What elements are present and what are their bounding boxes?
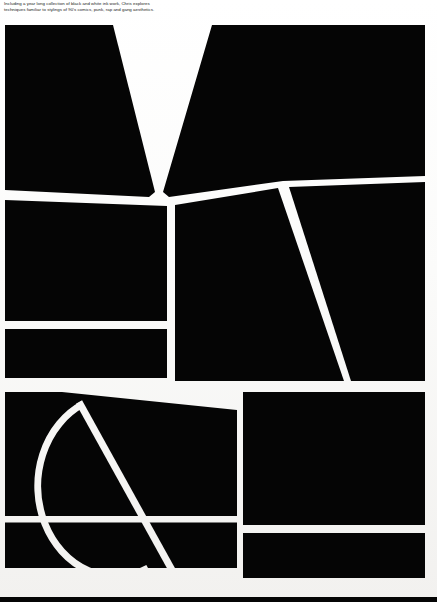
shape-mid-left-lower-panel — [5, 329, 167, 378]
shape-bottom-edge-strip — [0, 597, 437, 602]
shape-bottom-right-upper-panel — [243, 392, 425, 525]
abstract-artwork — [0, 0, 437, 602]
poster-canvas: Including a year long collection of blac… — [0, 0, 437, 602]
shape-top-right-panel — [163, 25, 425, 197]
shape-bottom-right-lower-panel — [243, 533, 425, 578]
shape-top-left-panel — [5, 25, 155, 197]
shape-bottom-left-arc-panel — [5, 392, 237, 568]
group-bottom-left — [5, 392, 237, 568]
shape-mid-left-upper-panel — [5, 200, 167, 321]
